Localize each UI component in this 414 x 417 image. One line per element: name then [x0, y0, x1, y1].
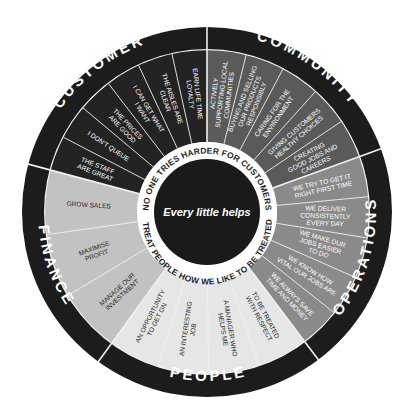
values-wheel-diagram: THE STAFFARE GREATI DON'T QUEUETHE PRICE… [0, 0, 414, 417]
center-slogan-text: Every little helps [163, 206, 250, 218]
